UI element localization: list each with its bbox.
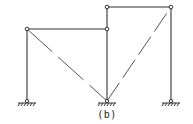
figure-caption: (b) [0,109,193,120]
hinge-node-icon [25,27,29,31]
ground-support-icon [162,103,180,106]
ground-support-icon [98,103,116,106]
support-hinge-icon [25,99,28,102]
frame-diagram [0,0,193,124]
left-diagonal-brace [27,29,107,101]
right-diagonal-brace [107,7,171,101]
ground-support-icon [18,103,36,106]
hinge-node-icon [169,5,173,9]
hinge-node-icon [105,5,109,9]
support-hinge-icon [169,99,172,102]
hinge-node-icon [105,27,109,31]
support-hinge-icon [105,99,108,102]
